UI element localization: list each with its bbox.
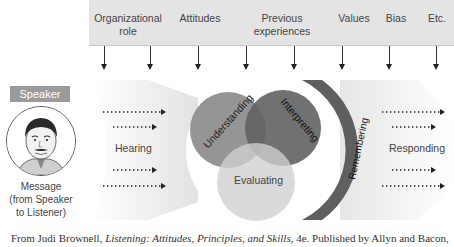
hearing-label: Hearing (115, 142, 152, 154)
evaluating-label: Evaluating (234, 174, 283, 186)
citation-suffix: , 4e. Published by Allyn and Bacon, (291, 232, 449, 244)
listening-process-diagram: Understanding Interpreting Remembering (0, 0, 454, 247)
responding-label: Responding (389, 142, 445, 154)
citation-title: Listening: Attitudes, Principles, and Sk… (105, 232, 291, 244)
source-citation: From Judi Brownell, Listening: Attitudes… (11, 232, 454, 244)
citation-prefix: From Judi Brownell, (11, 232, 105, 244)
